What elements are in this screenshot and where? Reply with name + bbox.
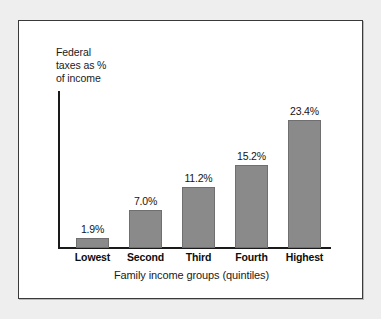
category-label: Highest — [278, 251, 331, 263]
bars-layer: 1.9%7.0%11.2%15.2%23.4% — [58, 21, 331, 248]
bar-value-label: 23.4% — [278, 105, 331, 117]
category-axis-labels: LowestSecondThirdFourthHighest — [58, 251, 331, 267]
bar[interactable] — [76, 238, 109, 248]
bar-group[interactable]: 7.0% — [119, 21, 172, 248]
category-label: Third — [172, 251, 225, 263]
bar-value-label: 1.9% — [66, 223, 119, 235]
x-axis-title: Family income groups (quintiles) — [39, 269, 344, 281]
bar-group[interactable]: 1.9% — [66, 21, 119, 248]
bar-value-label: 7.0% — [119, 195, 172, 207]
bar[interactable] — [288, 120, 321, 248]
bar-group[interactable]: 11.2% — [172, 21, 225, 248]
chart-figure-frame: Federal taxes as % of income 1.9%7.0%11.… — [18, 20, 363, 299]
bar-value-label: 11.2% — [172, 172, 225, 184]
bar[interactable] — [129, 210, 162, 248]
category-label: Lowest — [66, 251, 119, 263]
category-label: Fourth — [225, 251, 278, 263]
bar-group[interactable]: 23.4% — [278, 21, 331, 248]
category-label: Second — [119, 251, 172, 263]
bar[interactable] — [182, 187, 215, 248]
bar[interactable] — [235, 165, 268, 248]
bar-group[interactable]: 15.2% — [225, 21, 278, 248]
plot-area: Federal taxes as % of income 1.9%7.0%11.… — [19, 21, 362, 298]
bar-value-label: 15.2% — [225, 150, 278, 162]
